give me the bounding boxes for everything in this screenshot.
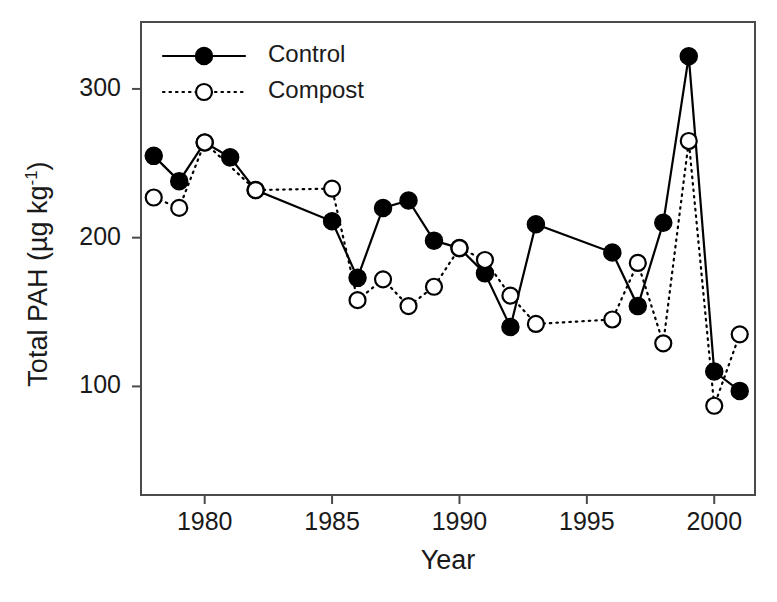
data-point-compost xyxy=(451,240,467,256)
data-point-control xyxy=(629,298,646,315)
legend-marker-compost xyxy=(196,84,212,100)
data-point-compost xyxy=(146,190,162,206)
data-point-compost xyxy=(655,335,671,351)
series-line-compost xyxy=(154,141,740,406)
data-point-compost xyxy=(528,316,544,332)
data-point-compost xyxy=(248,182,264,198)
data-point-control xyxy=(604,244,621,261)
data-point-control xyxy=(349,269,366,286)
data-point-compost xyxy=(375,271,391,287)
figure-root: Total PAH (µg kg-1) Year 100200300198019… xyxy=(0,0,777,602)
plot-frame xyxy=(141,22,755,495)
x-tick-label: 1985 xyxy=(282,507,382,536)
data-point-control xyxy=(375,199,392,216)
data-point-control xyxy=(706,363,723,380)
data-point-compost xyxy=(426,279,442,295)
data-point-compost xyxy=(502,288,518,304)
legend-marker-control xyxy=(196,48,213,65)
series-line-control xyxy=(154,56,740,391)
y-axis-title: Total PAH (µg kg-1) xyxy=(22,64,54,484)
data-point-compost xyxy=(197,134,213,150)
y-tick-label: 300 xyxy=(0,73,121,102)
data-point-control xyxy=(425,232,442,249)
y-axis-title-exponent: -1 xyxy=(22,170,41,185)
data-point-compost xyxy=(350,292,366,308)
data-point-control xyxy=(680,48,697,65)
data-point-control xyxy=(171,173,188,190)
y-axis-title-close: ) xyxy=(23,161,53,170)
x-tick-label: 2000 xyxy=(664,507,764,536)
x-tick-label: 1995 xyxy=(537,507,637,536)
data-point-compost xyxy=(630,255,646,271)
y-tick-label: 200 xyxy=(0,222,121,251)
data-point-control xyxy=(324,213,341,230)
legend-label-control: Control xyxy=(268,40,345,68)
data-point-compost xyxy=(681,133,697,149)
x-tick-label: 1990 xyxy=(409,507,509,536)
data-point-control xyxy=(145,147,162,164)
data-point-compost xyxy=(401,298,417,314)
data-point-compost xyxy=(171,200,187,216)
y-tick-label: 100 xyxy=(0,370,121,399)
data-point-control xyxy=(222,149,239,166)
x-tick-label: 1980 xyxy=(155,507,255,536)
y-axis-title-text: Total PAH (µg kg xyxy=(23,186,53,387)
x-axis-title: Year xyxy=(141,545,755,576)
legend-label-compost: Compost xyxy=(268,76,364,104)
data-point-control xyxy=(655,214,672,231)
pah-time-series-chart: Total PAH (µg kg-1) Year 100200300198019… xyxy=(0,0,777,602)
data-point-compost xyxy=(706,398,722,414)
data-point-compost xyxy=(324,181,340,197)
data-point-compost xyxy=(477,252,493,268)
data-point-control xyxy=(527,216,544,233)
data-point-compost xyxy=(604,311,620,327)
data-point-control xyxy=(731,382,748,399)
data-point-control xyxy=(502,318,519,335)
data-point-control xyxy=(400,192,417,209)
data-point-compost xyxy=(732,326,748,342)
